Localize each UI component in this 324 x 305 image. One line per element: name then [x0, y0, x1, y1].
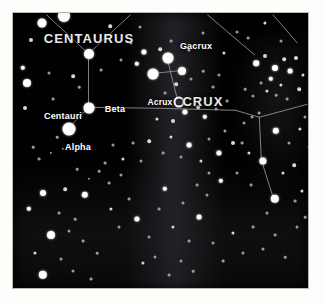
star-epsilon-centauri	[84, 49, 94, 59]
star-chart-figure: CENTAURUSCRUXGacruxAcruxBetaCentauriAlph…	[0, 0, 324, 305]
star	[96, 252, 99, 255]
star	[40, 190, 46, 196]
star	[78, 86, 81, 89]
star	[296, 226, 299, 229]
star	[180, 156, 183, 159]
star	[206, 194, 209, 197]
star	[170, 40, 173, 43]
star	[274, 234, 277, 237]
star-label-gacrux: Gacrux	[180, 41, 212, 51]
star	[38, 158, 41, 161]
star	[23, 106, 27, 110]
star-beta-centauri	[84, 103, 95, 114]
star	[242, 252, 245, 255]
constellation-line	[235, 110, 259, 117]
star	[158, 208, 161, 211]
star	[284, 256, 287, 259]
star	[108, 182, 111, 185]
star	[196, 184, 199, 187]
constellation-line	[167, 58, 178, 102]
star	[222, 260, 225, 263]
star	[294, 56, 298, 60]
star	[182, 202, 185, 205]
star	[72, 270, 75, 273]
star	[272, 65, 278, 71]
star	[60, 258, 63, 261]
star	[262, 248, 265, 251]
star	[208, 138, 211, 141]
star	[190, 78, 193, 81]
star	[202, 32, 205, 35]
star	[132, 142, 135, 145]
star	[38, 19, 47, 28]
star	[208, 172, 211, 175]
star	[304, 216, 307, 219]
star	[197, 215, 202, 220]
star	[288, 142, 291, 145]
star	[74, 218, 77, 221]
star	[120, 59, 123, 62]
star	[250, 184, 253, 187]
star	[128, 198, 131, 201]
star	[244, 88, 247, 91]
constellation-label-crux: CRUX	[182, 94, 223, 109]
star	[251, 116, 254, 119]
star	[253, 60, 259, 66]
star	[263, 54, 267, 58]
star	[292, 163, 296, 167]
star	[252, 95, 255, 98]
star	[100, 69, 103, 72]
star	[139, 26, 142, 29]
star	[154, 256, 157, 259]
star	[23, 79, 31, 87]
star	[76, 168, 79, 171]
star	[241, 142, 244, 145]
constellation-line	[208, 15, 255, 55]
star	[266, 212, 269, 215]
star	[236, 31, 239, 34]
star	[112, 144, 115, 147]
star	[231, 141, 235, 145]
star-delta-crucis	[148, 69, 159, 80]
star	[192, 270, 195, 273]
star	[63, 187, 67, 191]
star	[90, 278, 93, 281]
star	[147, 139, 151, 143]
star	[158, 47, 162, 51]
constellation-line	[273, 15, 297, 43]
star	[171, 119, 175, 123]
star	[304, 116, 307, 119]
star	[118, 226, 121, 229]
star	[104, 162, 107, 165]
star	[280, 40, 283, 43]
star	[212, 242, 215, 245]
star	[52, 98, 55, 101]
constellation-line	[259, 104, 307, 117]
star	[47, 231, 55, 239]
constellation-line	[259, 117, 261, 160]
sky-plate-frame: CENTAURUSCRUXGacruxAcruxBetaCentauriAlph…	[12, 12, 309, 289]
star	[187, 143, 192, 148]
star-mimosa	[178, 67, 186, 75]
star-gacrux	[163, 53, 174, 64]
star	[180, 260, 183, 263]
star	[168, 274, 171, 277]
star	[297, 87, 301, 91]
star	[140, 160, 143, 163]
star	[32, 146, 35, 149]
star	[162, 152, 165, 155]
star	[218, 74, 221, 77]
star	[294, 200, 297, 203]
star	[282, 57, 286, 61]
star	[224, 130, 227, 133]
star	[275, 94, 278, 97]
star-label-beta: Beta	[105, 104, 125, 114]
star	[288, 69, 293, 74]
constellation-line	[261, 160, 273, 198]
star	[188, 240, 191, 243]
star	[82, 240, 85, 243]
star	[202, 70, 205, 73]
constellation-label-centaurus: CENTAURUS	[44, 31, 135, 46]
star	[226, 100, 229, 103]
star	[58, 212, 61, 215]
